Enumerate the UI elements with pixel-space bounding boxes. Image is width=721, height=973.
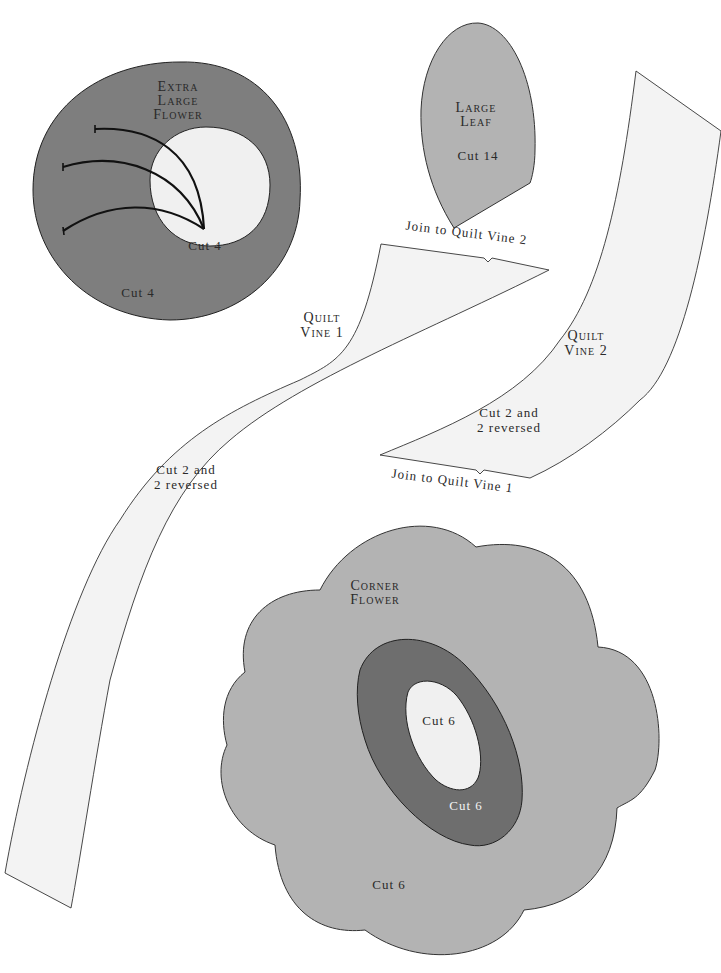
extra-large-flower-inner-cut: Cut 4 — [188, 238, 222, 253]
extra-large-flower-title-3: Flower — [153, 107, 202, 122]
corner-flower-title-2: Flower — [350, 592, 399, 607]
corner-flower-title-1: Corner — [350, 578, 399, 593]
quilt-vine-1-join-label: Join to Quilt Vine 2 — [405, 218, 528, 248]
quilt-vine-1-title-2: Vine 1 — [300, 325, 343, 340]
extra-large-flower-outer-cut: Cut 4 — [121, 285, 155, 300]
pattern-sheet: Extra Large Flower Cut 4 Cut 4 Large Lea… — [0, 0, 721, 973]
corner-flower-middle-cut: Cut 6 — [449, 798, 483, 813]
large-leaf-title-2: Leaf — [460, 114, 491, 129]
large-leaf-title-1: Large — [456, 100, 497, 115]
quilt-vine-1-cut-1: Cut 2 and — [156, 462, 216, 477]
corner-flower-inner-cut: Cut 6 — [422, 713, 456, 728]
extra-large-flower-title-2: Large — [158, 93, 199, 108]
extra-large-flower-title-1: Extra — [158, 79, 199, 94]
corner-flower-outer-cut: Cut 6 — [372, 877, 406, 892]
quilt-vine-1-title-1: Quilt — [304, 310, 341, 325]
corner-flower-piece — [221, 526, 659, 955]
large-leaf-cut: Cut 14 — [457, 148, 498, 163]
quilt-vine-2-title-1: Quilt — [568, 328, 605, 343]
quilt-vine-2-title-2: Vine 2 — [564, 343, 607, 358]
quilt-vine-1-cut-2: 2 reversed — [154, 477, 218, 492]
quilt-vine-2-cut-1: Cut 2 and — [479, 405, 539, 420]
quilt-vine-2-cut-2: 2 reversed — [477, 420, 541, 435]
